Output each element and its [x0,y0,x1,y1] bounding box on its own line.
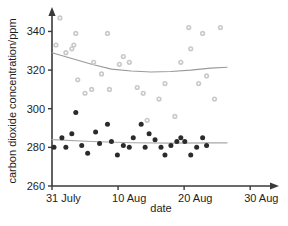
x-axis-tick-label: 20 Aug [178,192,212,204]
data-point [79,143,84,148]
data-point-highlight [202,32,204,34]
data-point [178,135,183,140]
data-point-highlight [71,48,73,50]
data-point [182,139,187,144]
trend-line [52,140,227,143]
data-point-highlight [198,83,200,85]
data-point [204,143,209,148]
x-axis-title: date [150,202,171,214]
data-point-highlight [158,98,160,100]
data-point-highlight [59,17,61,19]
data-point-highlight [219,27,221,29]
axis-labels-layer: 26028030032034031 July10 Aug20 Aug30 Aug… [6,18,278,214]
data-point [121,143,126,148]
x-axis-tick-label: 10 Aug [112,192,146,204]
data-point-highlight [128,61,130,63]
data-point [174,139,179,144]
y-axis-arrowhead [48,7,55,16]
data-point-highlight [65,52,67,54]
data-point [127,145,132,150]
data-point [194,145,199,150]
data-point-highlight [91,88,93,90]
data-point [105,122,110,127]
y-axis-tick-label: 320 [27,64,45,76]
data-point [59,135,64,140]
trend-lines-layer [52,53,227,143]
y-axis-tick-label: 260 [27,180,45,192]
data-point-highlight [122,56,124,58]
data-point-highlight [136,86,138,88]
data-point-highlight [93,61,95,63]
data-point-highlight [174,115,176,117]
data-point [153,137,158,142]
data-point-highlight [146,119,148,121]
data-point [188,153,193,158]
x-axis-tick-label: 31 July [46,192,81,204]
data-point-highlight [190,48,192,50]
y-axis-tick-label: 300 [27,103,45,115]
data-point-highlight [106,32,108,34]
y-axis-tick-label: 280 [27,141,45,153]
data-point-highlight [108,88,110,90]
data-point-highlight [180,61,182,63]
data-point-highlight [55,44,57,46]
data-point-highlight [164,83,166,85]
data-point [85,151,90,156]
data-point-highlight [206,75,208,77]
data-point [131,135,136,140]
data-point-highlight [214,98,216,100]
data-point [109,139,114,144]
data-point [139,122,144,127]
data-point-highlight [142,92,144,94]
data-points-layer [51,15,223,157]
data-point [162,153,167,158]
x-axis-arrowhead [270,182,279,189]
data-point [143,145,148,150]
data-point [200,135,205,140]
data-point [97,141,102,146]
data-point-highlight [84,92,86,94]
scatter-chart: 26028030032034031 July10 Aug20 Aug30 Aug… [0,0,288,226]
axes-layer [48,7,279,190]
data-point [69,131,74,136]
trend-line [52,53,227,72]
data-point-highlight [118,63,120,65]
x-axis-tick-label: 30 Aug [244,192,278,204]
data-point [168,143,173,148]
y-axis-tick-label: 340 [27,25,45,37]
chart-container: 26028030032034031 July10 Aug20 Aug30 Aug… [0,0,288,226]
data-point [63,145,68,150]
data-point [73,110,78,115]
data-point-highlight [101,73,103,75]
y-axis-title: carbon dioxide concentration/ppm [6,18,18,183]
data-point-highlight [77,79,79,81]
data-point [147,131,152,136]
data-point-highlight [188,27,190,29]
data-point [51,145,56,150]
data-point-highlight [75,32,77,34]
data-point-highlight [73,44,75,46]
data-point [159,145,164,150]
data-point [115,153,120,158]
data-point [93,129,98,134]
